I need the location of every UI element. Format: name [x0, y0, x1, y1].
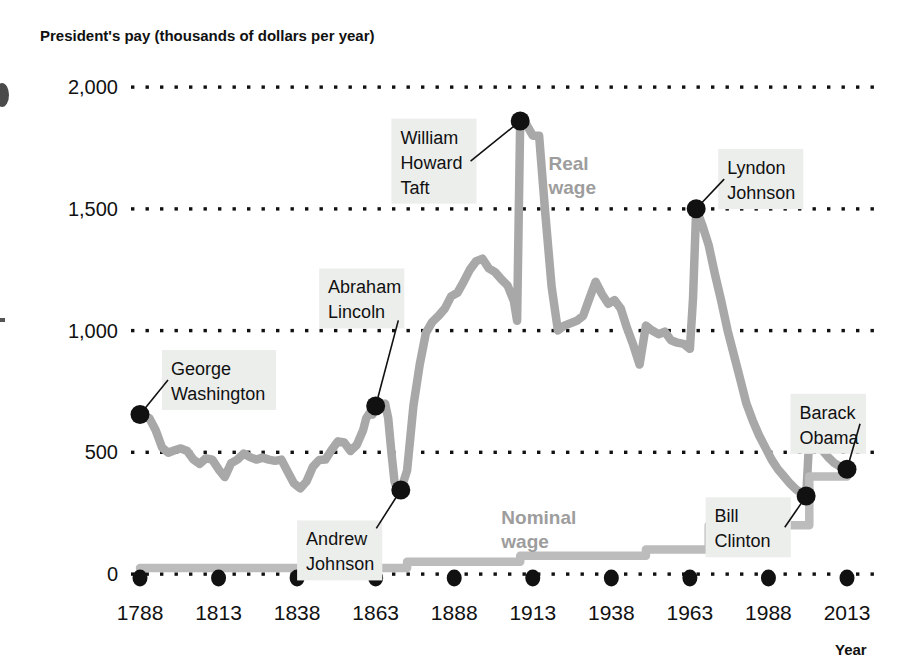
- annotation-label: Taft: [400, 178, 429, 198]
- y-tick-2,000: 2,000: [68, 76, 118, 98]
- x-tick-1838: 1838: [274, 601, 321, 624]
- x-tick-1963: 1963: [667, 601, 714, 624]
- x-tick-1988: 1988: [745, 601, 792, 624]
- annotation-label: Obama: [799, 428, 859, 448]
- year-marker-1938: [604, 570, 619, 587]
- y-tick-500: 500: [85, 441, 118, 463]
- year-marker-1988: [761, 570, 776, 587]
- x-tick-1863: 1863: [352, 601, 399, 624]
- year-marker-2013: [840, 570, 855, 587]
- svg-text:wage: wage: [547, 177, 596, 198]
- annotation-label: Johnson: [306, 554, 374, 574]
- year-marker-1813: [211, 570, 226, 587]
- annotation-label: Barack: [799, 403, 856, 423]
- x-tick-1788: 1788: [117, 601, 164, 624]
- year-marker-1888: [447, 570, 462, 587]
- chart-title: President's pay (thousands of dollars pe…: [40, 27, 375, 44]
- svg-text:wage: wage: [500, 531, 549, 552]
- year-marker-1788: [133, 570, 148, 587]
- annotation-point: [838, 460, 857, 479]
- annotation-label: Abraham: [328, 277, 401, 297]
- presidents-pay-line-chart: President's pay (thousands of dollars pe…: [0, 0, 909, 668]
- annotation-point: [391, 480, 410, 499]
- chart-container: President's pay (thousands of dollars pe…: [0, 0, 909, 668]
- x-tick-1813: 1813: [195, 601, 242, 624]
- y-tick-1,000: 1,000: [68, 320, 118, 342]
- annotation-label: Clinton: [715, 531, 771, 551]
- year-marker-1963: [682, 570, 697, 587]
- annotation-label: Lincoln: [328, 302, 385, 322]
- annotation-point: [131, 405, 150, 424]
- svg-text:Nominal: Nominal: [501, 507, 576, 528]
- annotation-point: [687, 199, 706, 218]
- annotation-label: Bill: [715, 506, 739, 526]
- y-tick-1,500: 1,500: [68, 198, 118, 220]
- annotation-label: Howard: [400, 153, 462, 173]
- annotation-label: Johnson: [727, 183, 795, 203]
- annotation-label: George: [171, 359, 231, 379]
- x-tick-1888: 1888: [431, 601, 478, 624]
- x-tick-2013: 2013: [824, 601, 871, 624]
- annotation-label: Lyndon: [727, 158, 785, 178]
- svg-text:Real: Real: [548, 153, 588, 174]
- annotation-point: [366, 396, 385, 415]
- x-tick-1913: 1913: [509, 601, 556, 624]
- x-axis-name: Year: [835, 641, 867, 658]
- annotation-point: [797, 487, 816, 506]
- scan-artifact-left-lower: [0, 318, 5, 322]
- year-marker-1913: [525, 570, 540, 587]
- annotation-point: [511, 112, 530, 131]
- annotation-label: Washington: [171, 384, 265, 404]
- annotation-label: William: [400, 128, 458, 148]
- y-tick-0: 0: [107, 563, 118, 585]
- x-tick-1938: 1938: [588, 601, 635, 624]
- annotation-label: Andrew: [306, 529, 368, 549]
